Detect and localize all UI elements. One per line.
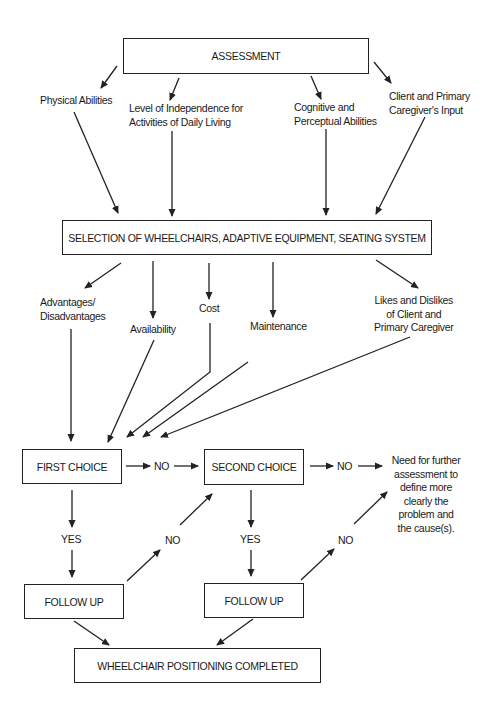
factor-client-caregiver-input: Client and Primary Caregiver's Input: [389, 90, 470, 117]
no-label-follow-up-1: NO: [165, 534, 180, 548]
factor-line: Advantages/: [40, 296, 106, 310]
factor-line: of Client and: [374, 308, 454, 322]
factor-availability: Availability: [130, 323, 176, 337]
factor-line: Level of Independence for: [129, 102, 243, 116]
factor-advantages-disadvantages: Advantages/ Disadvantages: [40, 296, 106, 323]
completed-box: WHEELCHAIR POSITIONING COMPLETED: [74, 648, 321, 683]
no-label-first: NO: [154, 460, 169, 474]
factor-line: Cognitive and: [294, 101, 377, 115]
follow-up-box-2: FOLLOW UP: [204, 583, 304, 618]
note-line: Need for further: [386, 454, 466, 468]
factor-likes-dislikes: Likes and Dislikes of Client and Primary…: [374, 294, 454, 335]
first-choice-label: FIRST CHOICE: [37, 461, 107, 473]
no-label-second: NO: [337, 460, 352, 474]
factor-cognitive-perceptual: Cognitive and Perceptual Abilities: [294, 101, 377, 128]
assessment-box: ASSESSMENT: [123, 38, 369, 74]
factor-line: Primary Caregiver: [374, 321, 454, 335]
assessment-label: ASSESSMENT: [212, 50, 281, 62]
no-label-follow-up-2: NO: [338, 534, 353, 548]
selection-label: SELECTION OF WHEELCHAIRS, ADAPTIVE EQUIP…: [68, 232, 426, 244]
note-line: clearly the: [386, 495, 466, 509]
factor-line: Cost: [199, 302, 219, 316]
factor-line: Physical Abilities: [40, 94, 112, 108]
factor-physical-abilities: Physical Abilities: [40, 94, 112, 108]
note-line: the cause(s).: [386, 522, 466, 536]
first-choice-box: FIRST CHOICE: [22, 449, 122, 484]
factor-line: Caregiver's Input: [389, 104, 470, 118]
factor-line: Disadvantages: [40, 310, 106, 324]
factor-line: Client and Primary: [389, 90, 470, 104]
factor-line: Availability: [130, 323, 176, 337]
selection-box: SELECTION OF WHEELCHAIRS, ADAPTIVE EQUIP…: [62, 220, 432, 255]
completed-label: WHEELCHAIR POSITIONING COMPLETED: [97, 660, 297, 672]
note-line: problem and: [386, 508, 466, 522]
factor-maintenance: Maintenance: [250, 320, 307, 334]
factor-cost: Cost: [199, 302, 219, 316]
follow-up-box-1: FOLLOW UP: [24, 584, 124, 619]
factor-line: Likes and Dislikes: [374, 294, 454, 308]
second-choice-label: SECOND CHOICE: [212, 461, 297, 473]
factor-independence-adl: Level of Independence for Activities of …: [129, 102, 243, 129]
follow-up-label-2: FOLLOW UP: [224, 595, 283, 607]
note-line: define more: [386, 481, 466, 495]
factor-line: Perceptual Abilities: [294, 115, 377, 129]
factor-line: Maintenance: [250, 320, 307, 334]
yes-label-second: YES: [240, 533, 260, 547]
note-line: assessment to: [386, 468, 466, 482]
follow-up-label-1: FOLLOW UP: [44, 596, 103, 608]
yes-label-first: YES: [61, 533, 81, 547]
second-choice-box: SECOND CHOICE: [204, 449, 304, 485]
further-assessment-note: Need for further assessment to define mo…: [386, 454, 466, 535]
factor-line: Activities of Daily Living: [129, 116, 243, 130]
